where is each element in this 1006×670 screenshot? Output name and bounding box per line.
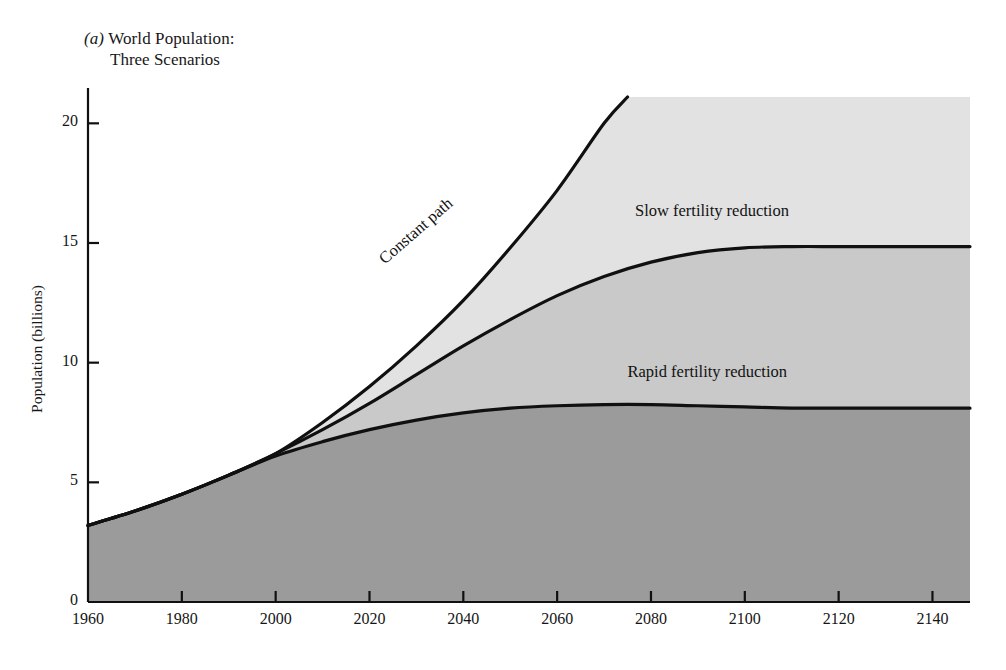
area-band-rapid-fertility [88,404,970,602]
x-axis-tick-label: 1960 [53,610,123,628]
figure-panel: (a) World Population: Three Scenarios Po… [0,0,1006,670]
series-label: Slow fertility reduction [635,201,789,221]
x-axis-tick-label: 2120 [804,610,874,628]
x-axis-tick-label: 2040 [428,610,498,628]
chart-canvas [0,0,1006,670]
x-axis-tick-label: 2000 [241,610,311,628]
x-axis-tick-label: 2020 [334,610,404,628]
y-axis-label: Population (billions) [28,249,46,449]
y-axis-tick-label: 15 [40,232,78,250]
x-axis-tick-label: 2100 [710,610,780,628]
y-axis-tick-label: 5 [40,471,78,489]
figure-title-line2: Three Scenarios [110,49,220,70]
y-axis-tick-label: 20 [40,112,78,130]
series-label: Rapid fertility reduction [628,362,787,382]
x-axis-tick-label: 2080 [616,610,686,628]
y-axis-tick-label: 0 [40,591,78,609]
x-axis-tick-label: 2140 [897,610,967,628]
y-axis-tick-label: 10 [40,352,78,370]
panel-marker: (a) [84,29,104,48]
x-axis-tick-label: 2060 [522,610,592,628]
x-axis-tick-label: 1980 [147,610,217,628]
figure-title-line1: World Population: [108,29,234,48]
figure-title: (a) World Population: [84,28,235,49]
